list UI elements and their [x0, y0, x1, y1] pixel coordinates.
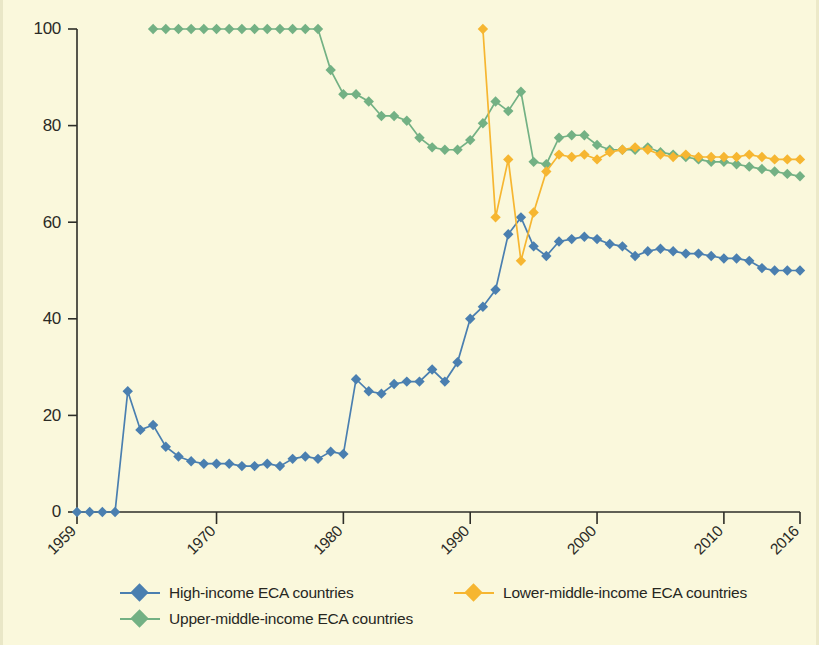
data-point-marker [186, 456, 196, 466]
x-axis-tick-label: 2016 [767, 522, 803, 558]
data-point-marker [249, 461, 259, 471]
data-point-marker [262, 459, 272, 469]
x-axis-tick-label: 1970 [183, 522, 219, 558]
legend-item[interactable]: Lower-middle-income ECA countries [454, 584, 747, 602]
legend-row-secondary: Upper-middle-income ECA countries [120, 610, 447, 628]
y-axis-tick-label: 40 [43, 309, 61, 328]
legend-item-label: High-income ECA countries [169, 584, 354, 602]
data-point-marker [757, 152, 767, 162]
y-axis-tick-label: 80 [43, 116, 61, 135]
data-point-marker [668, 246, 678, 256]
data-point-marker [237, 24, 247, 34]
data-point-marker [224, 24, 234, 34]
data-point-marker [110, 507, 120, 517]
data-point-marker [351, 89, 361, 99]
data-point-marker [186, 24, 196, 34]
data-point-marker [452, 357, 462, 367]
data-point-marker [643, 246, 653, 256]
data-point-marker [300, 451, 310, 461]
data-point-marker [199, 24, 209, 34]
legend-item-label: Lower-middle-income ECA countries [503, 584, 747, 602]
data-point-marker [579, 149, 589, 159]
legend-diamond-swatch [464, 583, 482, 601]
diamond-marker [454, 586, 494, 600]
data-point-marker [224, 459, 234, 469]
y-axis-tick-label: 100 [34, 19, 61, 38]
series-line [77, 217, 800, 512]
data-point-marker [275, 461, 285, 471]
data-point-marker [757, 263, 767, 273]
data-point-marker [148, 420, 158, 430]
data-point-marker [211, 459, 221, 469]
data-point-marker [275, 24, 285, 34]
chart-figure: 0204060801001959197019801990200020102016… [0, 0, 819, 645]
data-point-marker [693, 248, 703, 258]
data-point-marker [592, 234, 602, 244]
data-point-marker [554, 132, 564, 142]
data-point-marker [769, 166, 779, 176]
data-point-marker [389, 111, 399, 121]
data-point-marker [719, 253, 729, 263]
line-chart-plot: 0204060801001959197019801990200020102016 [0, 0, 819, 578]
data-point-marker [490, 212, 500, 222]
legend-diamond-swatch [130, 583, 148, 601]
data-point-marker [287, 24, 297, 34]
data-point-marker [592, 154, 602, 164]
series-upper-middle-income-eca-countries [148, 24, 805, 182]
data-point-marker [237, 461, 247, 471]
data-point-marker [744, 149, 754, 159]
data-point-marker [503, 154, 513, 164]
data-point-marker [617, 145, 627, 155]
axis-frame [77, 29, 800, 512]
legend-item[interactable]: Upper-middle-income ECA countries [120, 610, 413, 628]
data-point-marker [313, 24, 323, 34]
legend-row-primary: High-income ECA countriesLower-middle-in… [120, 584, 781, 602]
data-point-marker [566, 130, 576, 140]
data-point-marker [325, 446, 335, 456]
data-point-marker [123, 386, 133, 396]
data-point-marker [782, 169, 792, 179]
data-point-marker [84, 507, 94, 517]
data-point-marker [757, 164, 767, 174]
data-point-marker [440, 145, 450, 155]
data-point-marker [313, 454, 323, 464]
data-point-marker [72, 507, 82, 517]
data-point-marker [605, 239, 615, 249]
data-point-marker [402, 376, 412, 386]
data-point-marker [769, 154, 779, 164]
data-point-marker [579, 231, 589, 241]
data-point-marker [516, 87, 526, 97]
data-point-marker [566, 152, 576, 162]
data-point-marker [262, 24, 272, 34]
data-point-marker [782, 154, 792, 164]
y-axis-tick-label: 0 [52, 502, 61, 521]
data-point-marker [338, 89, 348, 99]
x-axis-tick-label: 1959 [44, 522, 80, 558]
data-point-marker [148, 24, 158, 34]
series-high-income-eca-countries [72, 212, 805, 517]
data-point-marker [211, 24, 221, 34]
data-point-marker [744, 256, 754, 266]
data-point-marker [655, 244, 665, 254]
data-point-marker [135, 425, 145, 435]
data-point-marker [478, 24, 488, 34]
legend-item-label: Upper-middle-income ECA countries [169, 610, 413, 628]
data-point-marker [338, 449, 348, 459]
data-point-marker [681, 248, 691, 258]
data-point-marker [795, 154, 805, 164]
data-point-marker [744, 161, 754, 171]
x-axis-tick-label: 1990 [437, 522, 473, 558]
diamond-marker [120, 586, 160, 600]
data-point-marker [325, 65, 335, 75]
data-point-marker [566, 234, 576, 244]
x-axis-tick-label: 2010 [690, 522, 726, 558]
y-axis-tick-label: 60 [43, 213, 61, 232]
y-axis-tick-label: 20 [43, 406, 61, 425]
data-point-marker [173, 24, 183, 34]
data-point-marker [706, 251, 716, 261]
x-axis-tick-label: 2000 [564, 522, 600, 558]
diamond-marker [120, 612, 160, 626]
legend-item[interactable]: High-income ECA countries [120, 584, 420, 602]
data-point-marker [795, 171, 805, 181]
data-point-marker [769, 265, 779, 275]
